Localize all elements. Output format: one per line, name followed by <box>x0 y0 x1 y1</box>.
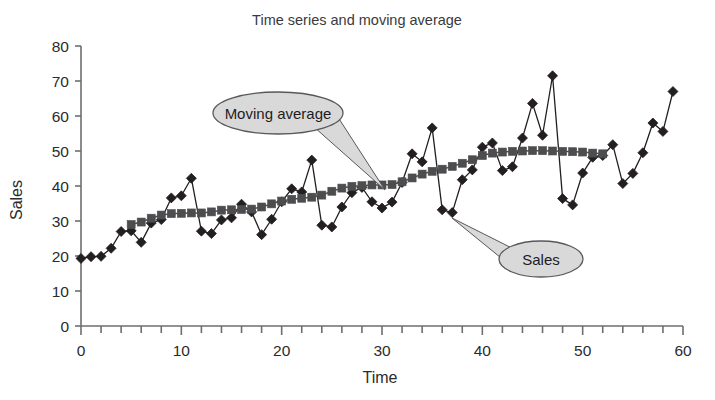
x-axis-title: Time <box>363 369 398 386</box>
data-point-marker <box>539 147 547 155</box>
chart-container: Time series and moving average 010203040… <box>0 0 715 400</box>
callout-label: Sales <box>522 251 560 268</box>
data-point-marker <box>187 209 195 217</box>
time-series-chart: Time series and moving average 010203040… <box>0 0 715 400</box>
data-point-marker <box>508 147 516 155</box>
y-axis-tick-label: 50 <box>52 143 70 160</box>
data-point-marker <box>589 149 597 157</box>
data-point-marker <box>348 182 356 190</box>
chart-title: Time series and moving average <box>252 12 462 28</box>
data-point-marker <box>217 206 225 214</box>
data-point-marker <box>488 149 496 157</box>
x-axis-tick-label: 40 <box>474 342 492 359</box>
data-point-marker <box>268 200 276 208</box>
data-point-marker <box>248 205 256 213</box>
callout-label: Moving average <box>225 105 332 122</box>
y-axis-tick-label: 0 <box>60 318 69 335</box>
data-point-marker <box>579 148 587 156</box>
data-point-marker <box>157 211 165 219</box>
data-point-marker <box>137 218 145 226</box>
y-axis-tick-label: 40 <box>52 178 70 195</box>
data-point-marker <box>468 156 476 164</box>
data-point-marker <box>428 167 436 175</box>
data-point-marker <box>549 147 557 155</box>
data-point-marker <box>288 195 296 203</box>
x-axis-tick-label: 10 <box>173 342 191 359</box>
data-point-marker <box>529 147 537 155</box>
data-point-marker <box>197 209 205 217</box>
data-point-marker <box>127 221 135 229</box>
data-point-marker <box>318 191 326 199</box>
data-point-marker <box>438 165 446 173</box>
data-point-marker <box>448 162 456 170</box>
data-point-marker <box>177 209 185 217</box>
x-axis-tick-label: 50 <box>574 342 592 359</box>
data-point-marker <box>147 214 155 222</box>
x-axis-tick-label: 60 <box>674 342 692 359</box>
x-axis-tick-label: 20 <box>273 342 291 359</box>
y-axis-tick-label: 70 <box>52 73 70 90</box>
data-point-marker <box>569 148 577 156</box>
data-point-marker <box>238 205 246 213</box>
data-point-marker <box>308 193 316 201</box>
data-point-marker <box>338 184 346 192</box>
data-point-marker <box>358 182 366 190</box>
data-point-marker <box>298 194 306 202</box>
data-point-marker <box>328 187 336 195</box>
data-point-marker <box>228 206 236 214</box>
data-point-marker <box>458 159 466 167</box>
data-point-marker <box>478 152 486 160</box>
data-point-marker <box>398 178 406 186</box>
data-point-marker <box>368 181 376 189</box>
data-point-marker <box>167 210 175 218</box>
y-axis-tick-label: 30 <box>52 213 70 230</box>
x-axis-tick-label: 0 <box>77 342 86 359</box>
data-point-marker <box>207 208 215 216</box>
data-point-marker <box>599 150 607 158</box>
data-point-marker <box>258 203 266 211</box>
x-axis-tick-label: 30 <box>373 342 391 359</box>
y-axis-title: Sales <box>8 180 25 220</box>
data-point-marker <box>559 147 567 155</box>
y-axis-tick-label: 80 <box>52 38 70 55</box>
y-axis-tick-label: 10 <box>52 283 70 300</box>
data-point-marker <box>388 181 396 189</box>
data-point-marker <box>408 174 416 182</box>
y-axis-tick-label: 20 <box>52 248 70 265</box>
chart-background <box>0 0 715 400</box>
data-point-marker <box>498 148 506 156</box>
data-point-marker <box>278 197 286 205</box>
data-point-marker <box>418 170 426 178</box>
y-axis-tick-label: 60 <box>52 108 70 125</box>
data-point-marker <box>518 147 526 155</box>
